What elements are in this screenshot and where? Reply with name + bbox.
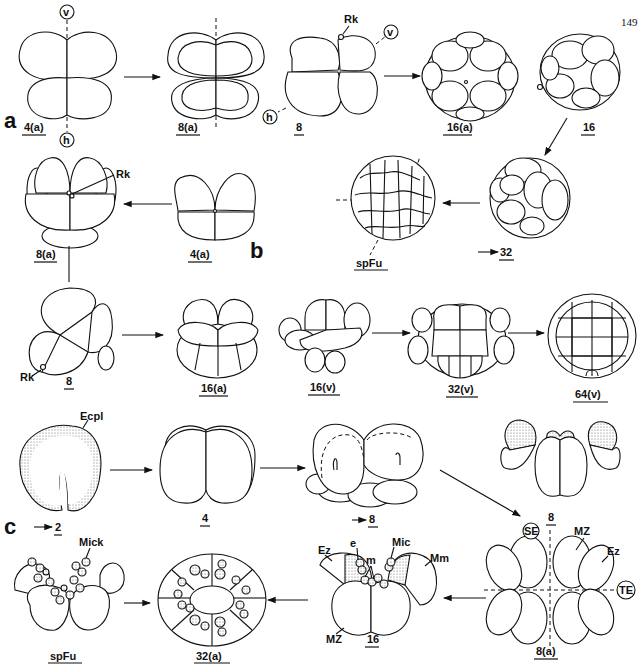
stage-c-32a: 32(a)	[158, 554, 266, 663]
svg-text:Ez: Ez	[318, 544, 331, 556]
page-number: 149	[621, 16, 638, 28]
stage-label: 16(a)	[447, 121, 473, 133]
stage-b-64v: 64(v)	[548, 294, 636, 402]
stage-label: 4	[202, 512, 209, 524]
stage-a-4a: v h 4(a)	[19, 5, 116, 147]
stage-label: 8	[548, 511, 554, 523]
stage-label: 8(a)	[36, 248, 56, 260]
stage-label: 16	[367, 633, 379, 645]
stage-b-8: Rk 8	[20, 288, 114, 389]
stage-label: 64(v)	[575, 388, 601, 400]
stage-b-16v: 16(v)	[279, 300, 370, 395]
stage-label: 4(a)	[24, 121, 44, 133]
stage-a-spFu: spFu	[336, 156, 435, 270]
stage-a-8a: 8(a)	[168, 18, 265, 135]
svg-text:m: m	[366, 554, 376, 566]
svg-text:h: h	[266, 111, 273, 123]
svg-text:h: h	[63, 134, 70, 146]
stage-c-8-side: 8	[306, 424, 423, 527]
stage-b-16a: 16(a)	[177, 300, 258, 396]
stage-b-32v: 32(v)	[408, 304, 514, 397]
svg-text:Mic: Mic	[392, 536, 410, 548]
stage-a-32: 32	[478, 158, 570, 260]
stage-label: 4(a)	[190, 248, 210, 260]
stage-b-8a: Rk 8(a)	[25, 158, 131, 282]
stage-b-4a: 4(a)	[175, 174, 256, 262]
stage-label: spFu	[50, 650, 76, 662]
svg-text:Ez: Ez	[607, 545, 620, 557]
stage-a-16a: 16(a)	[422, 32, 518, 135]
stage-a-16: 16	[538, 34, 621, 135]
stage-c-8: 8	[501, 420, 620, 525]
stage-label: 32(v)	[448, 383, 474, 395]
svg-text:MZ: MZ	[574, 525, 590, 537]
stage-c-2: Ecpl 2	[20, 410, 103, 535]
svg-text:SE: SE	[524, 525, 539, 537]
panel-c-label: c	[4, 514, 16, 539]
stage-label: 16(a)	[201, 382, 227, 394]
stage-c-8a: SE TE MZ Ez 8(a)	[479, 523, 635, 659]
stage-label: 16	[583, 121, 595, 133]
stage-label: 8	[296, 121, 302, 133]
panel-a-label: a	[4, 108, 17, 133]
svg-text:Mick: Mick	[79, 536, 104, 548]
svg-text:Ecpl: Ecpl	[80, 410, 103, 422]
cleavage-diagram: 149 a v h 4(a) 8(a)	[0, 0, 640, 664]
stage-label: 8	[369, 513, 375, 525]
stage-label: 32(a)	[196, 650, 222, 662]
svg-text:v: v	[387, 26, 394, 38]
stage-c-spFu: Mick spFu	[15, 536, 125, 663]
stage-label: 2	[55, 521, 61, 533]
svg-text:Rk: Rk	[116, 168, 131, 180]
stage-label: 16(v)	[310, 381, 336, 393]
stage-c-16: e m Mic Mm Ez MZ 16	[318, 536, 449, 647]
stage-a-8: Rk v h 8	[263, 13, 398, 135]
stage-label: 8(a)	[536, 645, 556, 657]
stage-c-4: 4	[160, 426, 255, 526]
svg-text:TE: TE	[619, 584, 633, 596]
svg-text:e: e	[350, 537, 356, 549]
svg-text:Mm: Mm	[430, 552, 449, 564]
svg-text:v: v	[63, 6, 70, 18]
svg-text:Rk: Rk	[20, 371, 35, 383]
stage-label: 8(a)	[178, 121, 198, 133]
svg-text:MZ: MZ	[326, 633, 342, 645]
stage-label: spFu	[356, 257, 382, 269]
stage-label: 8	[66, 375, 72, 387]
panel-b-label: b	[250, 238, 263, 263]
stage-label: 32	[500, 246, 512, 258]
svg-text:Rk: Rk	[344, 13, 359, 25]
